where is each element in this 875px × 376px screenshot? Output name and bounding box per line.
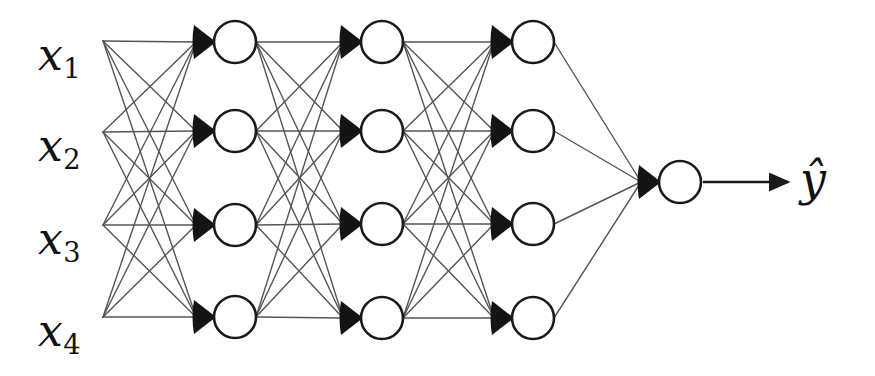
neuron-hidden-layer-1-4 [193, 296, 257, 338]
neuron-hidden-layer-2-2 [340, 110, 404, 152]
input-label-subscript: 2 [63, 144, 81, 175]
neuron-wedge-icon [491, 114, 515, 148]
neuron-circle [512, 110, 554, 152]
neuron-circle [659, 161, 701, 203]
neuron-circle [512, 21, 554, 63]
neuron-wedge-icon [638, 165, 662, 199]
input-label-base: x [38, 120, 63, 171]
connection-l3n1-to-l4n1 [554, 42, 641, 182]
neuron-output-layer-1 [638, 161, 702, 203]
input-label-x3: x3 [38, 217, 81, 266]
neuron-hidden-layer-1-1 [193, 21, 257, 63]
connections-group [103, 41, 641, 318]
neuron-hidden-layer-2-1 [340, 21, 404, 63]
input-label-subscript: 4 [63, 329, 81, 360]
neuron-wedge-icon [193, 25, 217, 59]
connection-input1-to-l1n1 [103, 41, 196, 42]
input-label-x1: x1 [38, 33, 81, 82]
neuron-circle [361, 203, 403, 245]
neuron-wedge-icon [340, 301, 364, 335]
neuron-circle [214, 21, 256, 63]
connection-l1n4-to-l2n4 [256, 317, 343, 318]
neural-network-figure: x1 x2 x3 x4 ŷ [0, 0, 875, 376]
neuron-hidden-layer-1-2 [193, 110, 257, 152]
neuron-circle [214, 204, 256, 246]
neuron-wedge-icon [193, 208, 217, 242]
input-label-x4: x4 [38, 309, 81, 358]
input-label-subscript: 1 [63, 53, 81, 84]
neuron-circle [361, 21, 403, 63]
neuron-wedge-icon [491, 207, 515, 241]
output-label-yhat: ŷ [800, 156, 826, 202]
neuron-hidden-layer-3-4 [491, 297, 555, 339]
neuron-wedge-icon [340, 25, 364, 59]
input-label-base: x [38, 213, 63, 264]
input-label-base: x [38, 29, 63, 80]
neuron-hidden-layer-3-1 [491, 21, 555, 63]
neuron-hidden-layer-2-3 [340, 203, 404, 245]
neuron-hidden-layer-2-4 [340, 297, 404, 339]
neuron-circle [512, 297, 554, 339]
neuron-hidden-layer-1-3 [193, 204, 257, 246]
neuron-wedge-icon [193, 300, 217, 334]
neuron-wedge-icon [491, 301, 515, 335]
neuron-wedge-icon [340, 207, 364, 241]
neuron-circle [361, 110, 403, 152]
input-label-x2: x2 [38, 124, 81, 173]
input-label-subscript: 3 [63, 237, 81, 268]
neuron-circle [214, 296, 256, 338]
neuron-circle [361, 297, 403, 339]
input-label-base: x [38, 305, 63, 356]
neuron-wedge-icon [491, 25, 515, 59]
neuron-hidden-layer-3-2 [491, 110, 555, 152]
connection-l3n2-to-l4n1 [554, 131, 641, 182]
connection-input2-to-l1n2 [103, 131, 196, 132]
connection-input1-to-l1n2 [103, 41, 196, 131]
neuron-circle [512, 203, 554, 245]
neuron-hidden-layer-3-3 [491, 203, 555, 245]
connection-input2-to-l1n1 [103, 42, 196, 132]
neuron-wedge-icon [193, 114, 217, 148]
neuron-circle [214, 110, 256, 152]
neuron-wedge-icon [340, 114, 364, 148]
network-graph [0, 0, 875, 376]
